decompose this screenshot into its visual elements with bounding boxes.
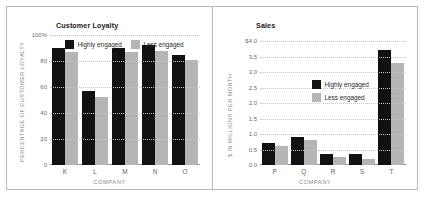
legend-sales: Highly engaged Less engaged <box>312 80 369 102</box>
legend-swatch-highly-engaged-icon <box>312 80 321 89</box>
gridline <box>260 72 406 73</box>
bar-M-less-engaged <box>125 52 138 165</box>
gridline <box>260 41 406 42</box>
gridline <box>50 35 200 36</box>
bar-T-highly-engaged <box>378 50 391 165</box>
x-axis-tick-label: O <box>183 168 188 175</box>
x-axis-tick-label: T <box>389 168 393 175</box>
bar-R-less-engaged <box>333 157 346 165</box>
y-axis-tick-label: 3.0 <box>249 69 257 75</box>
legend-item-highly-engaged: Highly engaged <box>65 40 122 49</box>
legend-swatch-less-engaged-icon <box>131 40 140 49</box>
y-axis-tick-label: 60 <box>40 84 47 90</box>
x-axis-title-customer-loyalty: COMPANY <box>93 179 125 185</box>
bar-K-highly-engaged <box>52 48 65 165</box>
y-axis-tick-label: 40 <box>40 110 47 116</box>
bar-L-less-engaged <box>95 97 108 165</box>
gridline <box>260 119 406 120</box>
chart-title-customer-loyalty: Customer Loyalty <box>56 21 118 30</box>
chart-title-sales: Sales <box>256 21 275 30</box>
x-axis-title-sales: COMPANY <box>299 179 331 185</box>
bar-groups-customer-loyalty: KLMNO <box>50 35 200 165</box>
legend-item-less-engaged: Less engaged <box>131 40 184 49</box>
y-axis-tick-label: 2.5 <box>249 85 257 91</box>
y-axis-tick-label: 1.5 <box>249 116 257 122</box>
y-axis-tick-label: 0 <box>44 162 47 168</box>
legend-customer-loyalty: Highly engaged Less engaged <box>65 40 184 49</box>
legend-label-highly-engaged: Highly engaged <box>325 81 369 88</box>
bar-M-highly-engaged <box>112 48 125 165</box>
bar-group: M <box>110 35 140 165</box>
bar-S-less-engaged <box>362 159 375 165</box>
bar-N-less-engaged <box>155 51 168 165</box>
figure-frame: Customer Loyalty PERCENTAGE OF CUSTOMER … <box>6 6 418 190</box>
gridline <box>50 61 200 62</box>
bar-N-highly-engaged <box>142 45 155 165</box>
y-axis-tick-label: 1.0 <box>249 131 257 137</box>
gridline <box>50 139 200 140</box>
gridline <box>260 150 406 151</box>
y-axis-tick-label: 2.0 <box>249 100 257 106</box>
legend-label-less-engaged: Less engaged <box>325 94 365 101</box>
bar-group: L <box>80 35 110 165</box>
gridline <box>260 134 406 135</box>
bar-group: N <box>140 35 170 165</box>
x-axis-tick-label: P <box>272 168 276 175</box>
x-axis-tick-label: M <box>122 168 127 175</box>
legend-label-highly-engaged: Highly engaged <box>78 41 122 48</box>
chart-panel-sales: Sales $ IN MILLIONS PER MONTH PQRST $4.0… <box>212 7 417 189</box>
chart-panel-customer-loyalty: Customer Loyalty PERCENTAGE OF CUSTOMER … <box>7 7 212 189</box>
legend-item-less-engaged: Less engaged <box>312 93 369 102</box>
x-axis-tick-label: K <box>63 168 67 175</box>
y-axis-title-sales: $ IN MILLIONS PER MONTH <box>227 74 233 157</box>
bar-O-highly-engaged <box>172 55 185 166</box>
y-axis-tick-label: 0.0 <box>249 162 257 168</box>
bar-group: O <box>170 35 200 165</box>
bar-P-highly-engaged <box>262 143 275 165</box>
y-axis-tick-label: 100% <box>32 32 47 38</box>
legend-label-less-engaged: Less engaged <box>143 41 183 48</box>
bar-L-highly-engaged <box>82 91 95 165</box>
gridline <box>50 113 200 114</box>
y-axis-tick-label: 20 <box>40 136 47 142</box>
bar-Q-less-engaged <box>304 140 317 165</box>
x-axis-tick-label: N <box>153 168 158 175</box>
y-axis-tick-label: 3.5 <box>249 54 257 60</box>
y-axis-tick-label: 80 <box>40 58 47 64</box>
plot-area-sales: PQRST $4.03.53.02.52.01.51.00.50.0 <box>260 41 406 165</box>
bar-S-highly-engaged <box>349 154 362 165</box>
plot-area-customer-loyalty: KLMNO 100%806040200 <box>50 35 200 165</box>
y-axis-tick-label: $4.0 <box>245 38 257 44</box>
bar-group: K <box>50 35 80 165</box>
y-axis-tick-label: 0.5 <box>249 147 257 153</box>
legend-swatch-highly-engaged-icon <box>65 40 74 49</box>
legend-item-highly-engaged: Highly engaged <box>312 80 369 89</box>
x-axis-tick-label: R <box>331 168 336 175</box>
bar-K-less-engaged <box>65 52 78 165</box>
x-axis-tick-label: Q <box>301 168 306 175</box>
bar-R-highly-engaged <box>320 154 333 165</box>
bar-Q-highly-engaged <box>291 137 304 165</box>
legend-swatch-less-engaged-icon <box>312 93 321 102</box>
gridline <box>260 103 406 104</box>
x-axis-tick-label: S <box>360 168 364 175</box>
gridline <box>50 87 200 88</box>
x-axis-tick-label: L <box>93 168 97 175</box>
y-axis-title-customer-loyalty: PERCENTAGE OF CUSTOMER LOYALTY <box>19 42 25 162</box>
gridline <box>260 57 406 58</box>
